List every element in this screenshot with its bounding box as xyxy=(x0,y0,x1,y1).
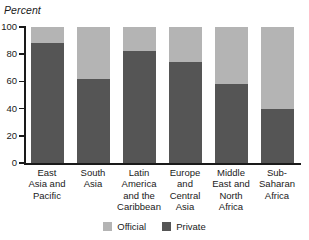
bar-segment-official xyxy=(31,27,64,43)
bar-slot xyxy=(24,27,70,163)
y-tick-label-text: 20 xyxy=(6,130,17,141)
category-label: EuropeandCentralAsia xyxy=(162,167,208,212)
legend-label: Official xyxy=(117,221,146,232)
category-label-line: East and xyxy=(209,178,253,189)
bar-slot xyxy=(208,27,254,163)
category-label-line: Middle xyxy=(209,167,253,178)
bar-segment-official xyxy=(261,27,294,109)
bar-segment-private xyxy=(215,84,248,163)
bar-segment-private xyxy=(123,51,156,163)
category-label: SouthAsia xyxy=(70,167,116,212)
category-label-line: Sub- xyxy=(255,167,299,178)
category-label-line: Latin xyxy=(117,167,161,178)
category-label: Sub-SaharanAfrica xyxy=(254,167,300,212)
category-label-line: Africa xyxy=(209,201,253,212)
stacked-bar xyxy=(77,27,110,163)
bar-segment-private xyxy=(261,109,294,163)
stacked-bar xyxy=(123,27,156,163)
legend-item[interactable]: Official xyxy=(103,221,146,232)
bar-segment-private xyxy=(31,43,64,163)
bar-slot xyxy=(254,27,300,163)
stacked-bar xyxy=(169,27,202,163)
category-label: MiddleEast andNorthAfrica xyxy=(208,167,254,212)
bar-slot xyxy=(162,27,208,163)
legend-item[interactable]: Private xyxy=(162,221,206,232)
bar-slot xyxy=(70,27,116,163)
category-label-line: Central xyxy=(163,190,207,201)
chart-legend: OfficialPrivate xyxy=(0,221,309,232)
y-tick-label-text: 0 xyxy=(12,157,17,168)
y-axis-title: Percent xyxy=(4,4,41,16)
bar-segment-official xyxy=(169,27,202,62)
category-label: EastAsia andPacific xyxy=(24,167,70,212)
y-tick-label-text: 60 xyxy=(6,75,17,86)
x-axis-line xyxy=(24,163,301,165)
category-label-line: Asia and xyxy=(25,178,69,189)
bar-segment-private xyxy=(169,62,202,163)
category-label-line: Pacific xyxy=(25,190,69,201)
bar-segment-official xyxy=(77,27,110,79)
category-label-line: Europe xyxy=(163,167,207,178)
bar-slot xyxy=(116,27,162,163)
stacked-bar-chart: Percent 020406080100 EastAsia andPacific… xyxy=(0,0,309,240)
category-label-line: Caribbean xyxy=(117,201,161,212)
y-tick-label-text: 40 xyxy=(6,103,17,114)
category-label: LatinAmericaand theCaribbean xyxy=(116,167,162,212)
legend-swatch-icon xyxy=(103,222,112,231)
category-label-line: North xyxy=(209,190,253,201)
category-label-line: Saharan xyxy=(255,178,299,189)
legend-label: Private xyxy=(176,221,206,232)
category-label-line: Africa xyxy=(255,190,299,201)
bars-group xyxy=(24,27,300,163)
stacked-bar xyxy=(261,27,294,163)
category-label-line: and the xyxy=(117,190,161,201)
legend-swatch-icon xyxy=(162,222,171,231)
y-tick-label-text: 80 xyxy=(6,48,17,59)
y-tick-label-text: 100 xyxy=(1,21,17,32)
category-label-line: and xyxy=(163,178,207,189)
category-label-line: South xyxy=(71,167,115,178)
bar-segment-private xyxy=(77,79,110,163)
stacked-bar xyxy=(215,27,248,163)
bar-segment-official xyxy=(215,27,248,84)
stacked-bar xyxy=(31,27,64,163)
category-label-line: America xyxy=(117,178,161,189)
category-label-line: East xyxy=(25,167,69,178)
category-label-line: Asia xyxy=(71,178,115,189)
x-axis-category-labels: EastAsia andPacificSouthAsiaLatinAmerica… xyxy=(24,167,300,212)
bar-segment-official xyxy=(123,27,156,51)
category-label-line: Asia xyxy=(163,201,207,212)
